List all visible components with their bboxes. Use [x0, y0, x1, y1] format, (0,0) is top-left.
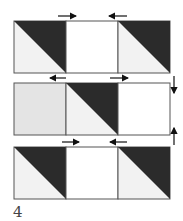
quilt-diagram: [0, 0, 183, 221]
row-2: [14, 76, 174, 145]
row-1: [14, 16, 170, 73]
figure-label: 4: [13, 203, 23, 221]
row-3: [14, 142, 170, 199]
